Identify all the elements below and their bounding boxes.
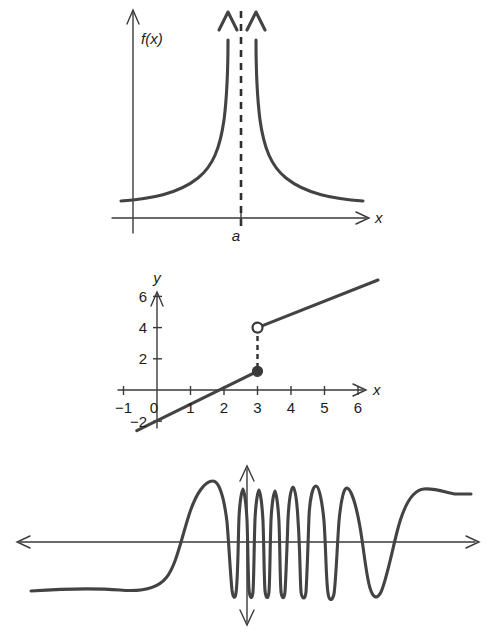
y-axis-label: f(x) [141, 30, 163, 47]
infinite-limit-svg: f(x) x a [0, 0, 502, 250]
x-axis [118, 384, 366, 396]
x-tick-label-0: 0 [150, 399, 158, 416]
oscillating-curve [31, 481, 471, 600]
open-endpoint [253, 323, 263, 333]
y-tick-label-2: 2 [139, 350, 147, 367]
y-tick-label--2: −2 [130, 413, 147, 430]
panel-oscillating [0, 455, 502, 637]
x-axis-label: x [374, 209, 383, 226]
curve-right-branch [247, 12, 363, 201]
x-tick-label-6: 6 [354, 399, 362, 416]
panel-jump-discontinuity: −1 0 1 2 3 4 5 6 −2 2 4 6 y x [0, 250, 502, 455]
y-tick-label-6: 6 [139, 288, 147, 305]
figure-page: f(x) x a [0, 0, 502, 637]
y-tick-label-4: 4 [139, 319, 147, 336]
x-tick-label-4: 4 [287, 399, 295, 416]
panel-infinite-limit: f(x) x a [0, 0, 502, 250]
x-tick-label-3: 3 [253, 399, 261, 416]
closed-endpoint [253, 366, 263, 376]
x-tick-label-2: 2 [220, 399, 228, 416]
x-tick-label-5: 5 [320, 399, 328, 416]
x-axis-label: x [372, 381, 381, 398]
right-line-segment [258, 280, 379, 328]
curve-left-branch [121, 12, 237, 201]
jump-discontinuity-svg: −1 0 1 2 3 4 5 6 −2 2 4 6 y x [0, 250, 502, 455]
y-axis-label: y [152, 269, 162, 286]
asymptote-label: a [232, 227, 240, 244]
oscillating-svg [0, 455, 502, 637]
x-tick-label-1: 1 [186, 399, 194, 416]
